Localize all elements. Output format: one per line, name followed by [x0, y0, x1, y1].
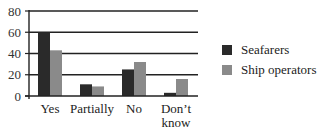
bar-ship-operators	[134, 62, 146, 96]
y-tick-label: 40	[8, 46, 21, 61]
legend-item-seafarers: Seafarers	[222, 40, 316, 60]
legend-item-ship-operators: Ship operators	[222, 60, 316, 80]
legend: Seafarers Ship operators	[222, 40, 316, 80]
legend-swatch-seafarers	[222, 45, 232, 55]
legend-label: Seafarers	[241, 42, 289, 58]
legend-swatch-ship-operators	[222, 65, 232, 75]
legend-label: Ship operators	[241, 62, 316, 78]
bar-ship-operators	[92, 86, 104, 96]
y-tick-label: 80	[8, 4, 21, 19]
x-category-label: Partially	[70, 101, 115, 116]
x-category-label: No	[126, 101, 142, 116]
bars	[38, 32, 188, 96]
y-tick-label: 0	[15, 89, 22, 104]
x-category-label: Yes	[41, 101, 60, 116]
x-category-label: know	[162, 115, 192, 130]
y-tick-label: 60	[8, 25, 21, 40]
y-axis-ticks: 020406080	[8, 4, 21, 104]
y-tick-label: 20	[8, 67, 21, 82]
x-category-label: Don’t	[161, 101, 191, 116]
x-axis-categories: YesPartiallyNoDon’tknow	[41, 101, 192, 130]
bar-seafarers	[38, 32, 50, 96]
bar-ship-operators	[176, 79, 188, 96]
bar-seafarers	[80, 84, 92, 96]
bar-seafarers	[122, 69, 134, 96]
bar-ship-operators	[50, 50, 62, 96]
